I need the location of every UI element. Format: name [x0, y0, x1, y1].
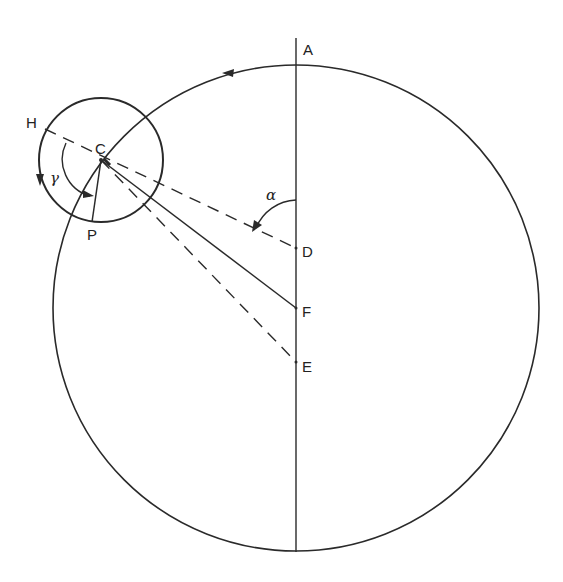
label-h: H [26, 114, 37, 131]
line-h-to-d-dashed [45, 129, 296, 248]
label-f: F [302, 303, 311, 320]
label-a: A [303, 41, 313, 58]
point-c [99, 158, 103, 162]
angle-alpha-arc [256, 200, 296, 228]
label-e: E [302, 358, 312, 375]
label-p: P [87, 226, 97, 243]
point-e [295, 361, 298, 364]
angle-alpha-arrow-icon [252, 220, 262, 232]
label-gamma: γ [50, 169, 59, 187]
label-c: C [95, 140, 106, 157]
diagram-canvas: A H C P D F E α γ [0, 0, 563, 582]
angle-gamma-arrow-icon [83, 190, 94, 198]
label-d: D [302, 243, 313, 260]
point-f [295, 307, 298, 310]
angle-gamma-arc [62, 143, 90, 196]
point-d [295, 247, 298, 250]
label-alpha: α [266, 186, 276, 204]
